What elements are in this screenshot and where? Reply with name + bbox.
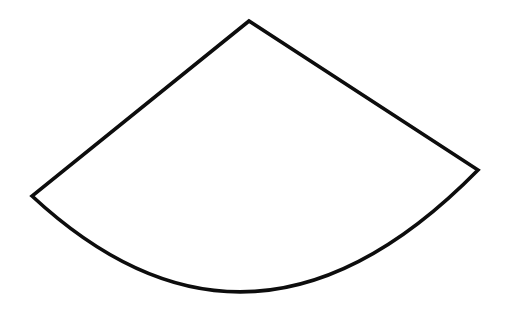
drawing-canvas xyxy=(0,0,508,319)
circular-sector-figure xyxy=(0,0,508,319)
